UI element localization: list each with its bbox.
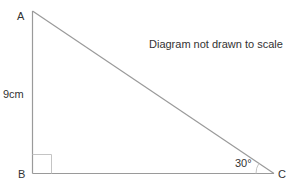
vertex-label-b: B: [18, 168, 25, 180]
triangle-diagram: A B C 9cm 30° Diagram not drawn to scale: [0, 0, 292, 186]
vertex-label-c: C: [278, 168, 286, 180]
side-ac: [33, 11, 275, 174]
side-ab-length-label: 9cm: [3, 88, 24, 100]
angle-c-label: 30°: [235, 157, 252, 169]
scale-note: Diagram not drawn to scale: [149, 38, 283, 50]
angle-arc-c: [256, 163, 259, 173]
right-angle-marker: [33, 155, 52, 174]
vertex-label-a: A: [17, 10, 25, 22]
